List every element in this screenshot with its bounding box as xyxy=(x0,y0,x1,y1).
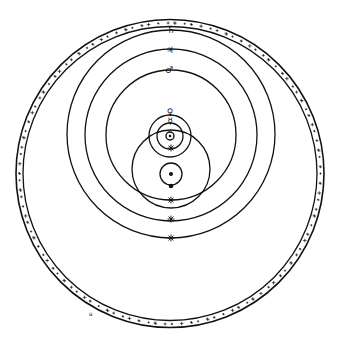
star-icon xyxy=(305,108,307,110)
star-icon xyxy=(171,323,173,325)
star-icon xyxy=(318,156,320,158)
star-icon xyxy=(86,47,88,49)
star-icon xyxy=(306,233,309,236)
star-icon xyxy=(284,270,286,272)
star-icon xyxy=(209,27,211,29)
star-icon xyxy=(122,315,124,317)
star-icon xyxy=(317,199,319,201)
star-icon xyxy=(147,321,149,323)
star-icon xyxy=(22,136,26,140)
jupiter-symbol-icon: ♃ xyxy=(166,45,174,55)
star-marker-icon xyxy=(168,145,175,152)
star-icon xyxy=(70,286,73,289)
star-icon xyxy=(19,188,23,192)
star-icon xyxy=(299,248,301,250)
star-icon xyxy=(213,316,216,319)
star-icon xyxy=(100,38,104,42)
star-icon xyxy=(83,296,87,300)
star-icon xyxy=(77,52,81,56)
star-icon xyxy=(89,300,92,303)
star-icon xyxy=(319,172,321,174)
star-icon xyxy=(34,105,36,107)
star-icon xyxy=(19,179,21,181)
star-icon xyxy=(20,146,23,149)
star-icon xyxy=(279,274,282,277)
star-icon xyxy=(275,65,277,67)
star-icon xyxy=(42,90,46,94)
star-icon xyxy=(20,195,23,198)
star-icon xyxy=(22,205,24,207)
star-icon xyxy=(246,302,248,304)
star-icon xyxy=(137,319,140,322)
star-icon xyxy=(272,281,276,285)
star-icon xyxy=(259,292,262,295)
star-icon xyxy=(45,259,49,263)
star-icon xyxy=(295,91,298,94)
star-icon xyxy=(311,123,315,127)
star-icon xyxy=(31,111,35,115)
star-icon xyxy=(70,58,73,61)
star-icon xyxy=(254,49,256,51)
star-icon xyxy=(91,43,94,46)
saturn-symbol-icon: ♄ xyxy=(167,25,175,35)
mercury-symbol-icon: ☿ xyxy=(167,116,173,126)
tychonic-diagram: ♄♃♂♀☿ a xyxy=(0,0,339,345)
star-icon xyxy=(32,236,36,240)
star-icon xyxy=(24,214,28,218)
star-icon xyxy=(240,40,243,43)
star-icon xyxy=(147,23,151,27)
star-icon xyxy=(112,312,115,315)
star-icon xyxy=(224,32,228,36)
star-icon xyxy=(30,230,32,232)
star-icon xyxy=(317,191,321,195)
star-icon xyxy=(295,253,298,256)
star-icon xyxy=(216,29,219,32)
star-icon xyxy=(303,239,307,243)
star-icon xyxy=(115,31,118,34)
star-icon xyxy=(157,22,159,24)
star-icon xyxy=(319,165,322,168)
star-icon xyxy=(319,182,322,185)
star-icon xyxy=(190,321,193,324)
star-icon xyxy=(76,290,78,292)
star-icon xyxy=(154,321,158,325)
star-icon xyxy=(184,23,186,25)
star-icon xyxy=(222,313,224,315)
star-icon xyxy=(199,24,203,28)
star-icon xyxy=(20,153,22,155)
star-marker-icon xyxy=(168,216,175,223)
star-icon xyxy=(56,272,58,274)
star-icon xyxy=(54,75,57,78)
star-icon xyxy=(131,27,133,29)
star-icon xyxy=(98,305,100,307)
star-icon xyxy=(251,297,255,301)
star-icon xyxy=(128,317,132,321)
star-icon xyxy=(300,99,304,103)
star-icon xyxy=(292,85,294,87)
star-icon xyxy=(42,254,44,256)
moon-icon xyxy=(169,184,174,189)
star-icon xyxy=(237,306,240,309)
sun-orbit xyxy=(132,130,210,208)
earth-icon xyxy=(169,172,173,176)
star-icon xyxy=(164,322,167,325)
star-icon xyxy=(52,267,55,270)
star-icon xyxy=(58,69,62,73)
star-icon xyxy=(285,77,289,81)
star-icon xyxy=(289,261,293,265)
star-icon xyxy=(106,36,108,38)
star-icon xyxy=(27,120,30,123)
star-icon xyxy=(231,36,233,38)
star-icon xyxy=(206,317,210,321)
star-icon xyxy=(262,54,265,57)
star-icon xyxy=(65,63,67,65)
star-icon xyxy=(267,286,269,288)
star-icon xyxy=(313,214,317,218)
star-marker-icon xyxy=(168,197,175,204)
star-icon xyxy=(106,309,110,313)
star-icon xyxy=(313,130,315,132)
star-icon xyxy=(248,44,252,48)
star-icon xyxy=(18,162,22,166)
corner-letter: a xyxy=(89,310,93,317)
star-icon xyxy=(26,221,29,224)
